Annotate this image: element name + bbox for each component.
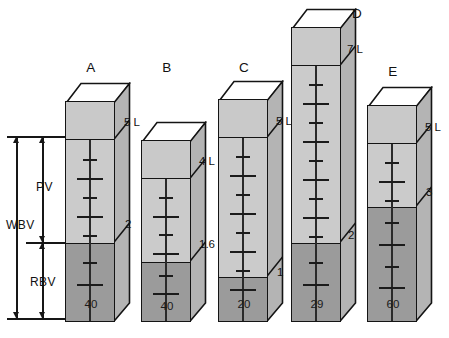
column-c-tick bbox=[230, 213, 256, 215]
column-e-tick bbox=[385, 162, 399, 164]
column-a-tick bbox=[77, 284, 103, 286]
column-a-tick bbox=[77, 178, 103, 180]
column-c-tick bbox=[230, 175, 256, 177]
column-c-tick bbox=[236, 156, 250, 158]
column-b-empty-segment bbox=[142, 141, 190, 178]
column-a-tick bbox=[83, 197, 97, 199]
column-c-top-volume-label: 5 L bbox=[276, 115, 292, 127]
column-a[interactable]: 40 bbox=[65, 82, 131, 322]
column-b-front-face: 40 bbox=[141, 140, 191, 322]
column-b-tick bbox=[159, 234, 173, 236]
column-d-tick bbox=[309, 160, 323, 162]
column-e-tick bbox=[379, 287, 405, 289]
column-d-boundary-label: 2 bbox=[348, 229, 354, 241]
column-a-tick bbox=[83, 235, 97, 237]
column-c-boundary-label: 1 bbox=[277, 266, 283, 278]
column-d-tick bbox=[309, 198, 323, 200]
column-c-tick bbox=[236, 232, 250, 234]
column-e-tick bbox=[379, 244, 405, 246]
column-b-top-volume-label: 4 L bbox=[199, 155, 215, 167]
column-c-scale-line bbox=[242, 138, 243, 321]
column-d-tick bbox=[309, 236, 323, 238]
column-d-front-face: 29 bbox=[291, 27, 341, 322]
column-e-top-volume-label: 5 L bbox=[425, 121, 441, 133]
column-a-top-volume-label: 5 L bbox=[124, 116, 140, 128]
column-d-tick bbox=[303, 103, 329, 105]
column-d-tick bbox=[309, 262, 323, 264]
column-d-tick bbox=[303, 217, 329, 219]
column-c-tick bbox=[236, 270, 250, 272]
column-b-label: B bbox=[142, 60, 192, 75]
column-b[interactable]: 40 bbox=[141, 121, 207, 322]
column-e-empty-segment bbox=[368, 106, 416, 143]
column-b-tick bbox=[153, 216, 179, 218]
column-a-boundary-label: 2 bbox=[125, 218, 131, 230]
column-a-front-face: 40 bbox=[65, 101, 115, 322]
column-c-tick bbox=[236, 194, 250, 196]
column-d-side-face bbox=[339, 8, 357, 322]
column-d-bottom-value: 29 bbox=[292, 298, 341, 310]
column-b-bottom-value: 40 bbox=[142, 300, 191, 312]
column-a-bottom-value: 40 bbox=[66, 298, 115, 310]
column-b-side-face bbox=[189, 121, 207, 322]
column-d-tick bbox=[309, 84, 323, 86]
pv-label: PV bbox=[36, 180, 53, 194]
column-a-scale-line bbox=[89, 140, 90, 321]
column-b-tick bbox=[153, 253, 179, 255]
column-a-tick bbox=[77, 216, 103, 218]
column-e-bottom-value: 60 bbox=[368, 298, 417, 310]
figure-canvas: WBV PV RBV bbox=[0, 0, 449, 338]
column-c-empty-segment bbox=[219, 100, 267, 137]
column-e-boundary-label: 3 bbox=[426, 186, 432, 198]
column-d-tick bbox=[303, 179, 329, 181]
column-c-label: C bbox=[219, 60, 269, 75]
column-d-label: D bbox=[342, 6, 372, 21]
column-a-label: A bbox=[66, 60, 116, 75]
column-d-tick bbox=[309, 122, 323, 124]
column-c-front-face: 20 bbox=[218, 99, 268, 322]
column-a-tick bbox=[83, 262, 97, 264]
column-d-top-volume-label: 7 L bbox=[347, 43, 363, 55]
axis-mid-rule bbox=[26, 242, 68, 244]
column-e-front-face: 60 bbox=[367, 105, 417, 322]
column-e-tick bbox=[385, 222, 399, 224]
column-b-tick bbox=[159, 197, 173, 199]
rbv-label: RBV bbox=[30, 275, 56, 289]
column-e-tick bbox=[385, 200, 399, 202]
column-a-empty-segment bbox=[66, 102, 114, 139]
column-c[interactable]: 20 bbox=[218, 80, 284, 322]
column-b-boundary-label: 1.6 bbox=[199, 238, 215, 250]
column-d-empty-segment bbox=[292, 28, 340, 65]
column-a-tick bbox=[83, 159, 97, 161]
axis-bottom-rule bbox=[7, 318, 67, 320]
column-d[interactable]: 29 bbox=[291, 8, 357, 322]
column-e-scale-line bbox=[391, 144, 392, 321]
column-b-tick bbox=[159, 275, 173, 277]
column-e-tick bbox=[385, 266, 399, 268]
column-c-tick bbox=[230, 289, 256, 291]
wbv-label: WBV bbox=[6, 218, 35, 232]
column-c-bottom-value: 20 bbox=[219, 298, 268, 310]
column-e-label: E bbox=[368, 64, 418, 79]
column-c-tick bbox=[230, 251, 256, 253]
column-e-tick bbox=[379, 181, 405, 183]
column-d-tick bbox=[303, 141, 329, 143]
column-b-tick bbox=[153, 293, 179, 295]
column-e[interactable]: 60 bbox=[367, 86, 433, 322]
column-d-tick bbox=[303, 284, 329, 286]
